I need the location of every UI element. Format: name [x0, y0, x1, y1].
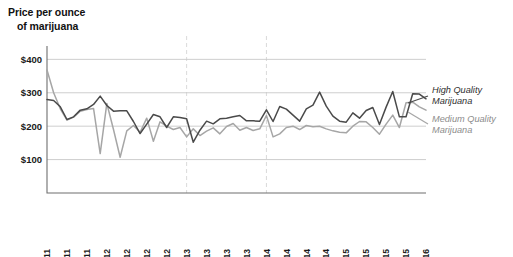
x-tick-label: Jan-14 [262, 249, 272, 257]
series-line-medium-quality [47, 70, 426, 157]
x-tick-label: Jul-15 [381, 249, 391, 257]
legend-label-medium-quality-line-2: Marijuana [432, 125, 472, 135]
x-tick-label: Oct-15 [401, 249, 411, 257]
x-tick-label: Jul-13 [222, 249, 232, 257]
x-tick-label: Oct-13 [242, 249, 252, 257]
legend-label-medium-quality-line-1: Medium Quality [432, 114, 497, 124]
y-tick-label: $200 [21, 121, 42, 132]
legend-label-high-quality-line-1: High Quality [432, 85, 483, 95]
x-tick-label: Apr-13 [202, 249, 212, 257]
x-tick-label: Oct-14 [321, 249, 331, 257]
y-tick-label: $400 [21, 54, 42, 65]
x-tick-label: Jul-14 [302, 249, 312, 257]
x-tick-label: Apr-12 [122, 249, 132, 257]
line-chart-svg: $100$200$300$400 Apr-11Jul-11Oct-11Jan-1… [0, 0, 513, 257]
x-tick-labels-group: Apr-11Jul-11Oct-11Jan-12Apr-12Jul-12Oct-… [42, 249, 431, 257]
legend-label-high-quality-line-2: Marijuana [432, 96, 472, 106]
x-tick-label: Jul-11 [62, 249, 72, 257]
x-tick-label: Oct-11 [82, 249, 92, 257]
x-tick-label: Jan-16 [421, 249, 431, 257]
x-tick-label: Apr-14 [282, 249, 292, 257]
x-tick-label: Jan-12 [102, 249, 112, 257]
x-tick-label: Apr-15 [361, 249, 371, 257]
y-tick-label: $100 [21, 154, 42, 165]
x-tick-label: Apr-11 [42, 249, 52, 257]
x-tick-label: Jan-15 [341, 249, 351, 257]
axis-lines [47, 46, 426, 193]
y-tick-label: $300 [21, 87, 42, 98]
legend-leader-medium [408, 112, 428, 124]
y-tick-labels-group: $100$200$300$400 [21, 54, 42, 165]
chart-container: Price per ounce of marijuana $100$200$30… [0, 0, 513, 257]
x-tick-label: Oct-12 [162, 249, 172, 257]
series-line-high-quality [47, 91, 426, 142]
x-tick-label: Jan-13 [182, 249, 192, 257]
x-tick-label: Jul-12 [142, 249, 152, 257]
